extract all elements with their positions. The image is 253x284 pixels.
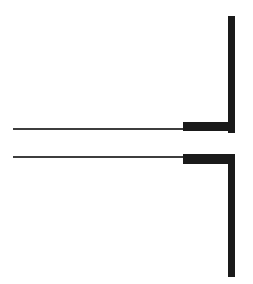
- figure-line-drawing: [0, 0, 253, 284]
- drawing-canvas: [0, 0, 253, 284]
- post-gap: [228, 133, 235, 154]
- lower-thick-segment: [183, 154, 235, 164]
- lower-thin-rule: [13, 156, 184, 158]
- vertical-post-lower: [228, 154, 235, 277]
- upper-thick-segment: [183, 122, 235, 131]
- vertical-post-upper: [228, 16, 235, 133]
- upper-thin-rule: [13, 128, 184, 130]
- figure-background: [0, 0, 253, 284]
